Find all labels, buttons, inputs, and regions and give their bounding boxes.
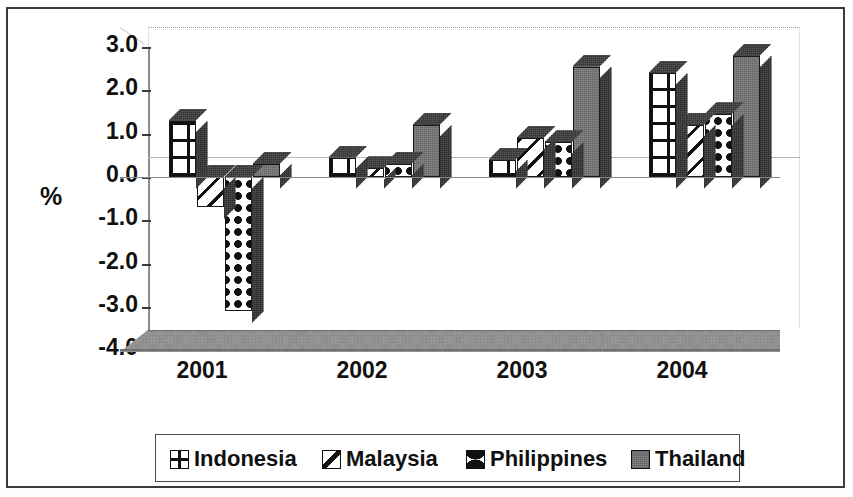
- legend-label: Thailand: [655, 446, 745, 472]
- chart-screenshot: 3.02.01.00.0-1.0-2.0-3.0-4.0 % 200120022…: [0, 0, 853, 497]
- legend-items-row: IndonesiaMalaysiaPhilippinesThailand: [156, 435, 739, 481]
- legend-item-indonesia: Indonesia: [170, 446, 297, 472]
- legend-item-malaysia: Malaysia: [322, 446, 438, 472]
- bar-side-face: [252, 177, 264, 323]
- x-axis-label-2002: 2002: [307, 357, 417, 384]
- thailand-solid-swatch: [631, 450, 650, 469]
- y-axis-tick-mark: [142, 90, 151, 92]
- y-axis-tick-label: -2.0: [60, 250, 138, 273]
- bar-indonesia-2002: [329, 158, 356, 177]
- bar-front-face: [649, 73, 676, 177]
- y-axis-tick-mark: [142, 134, 151, 136]
- bar-front-face: [169, 121, 196, 177]
- bar-front-face: [385, 164, 412, 177]
- legend-item-thailand: Thailand: [631, 446, 745, 472]
- philippines-wavy-swatch: [466, 450, 485, 469]
- zero-line: [120, 177, 780, 178]
- y-axis-tick-mark: [142, 264, 151, 266]
- bar-front-face: [329, 158, 356, 177]
- plot-floor-front-edge: [120, 349, 780, 351]
- bar-indonesia-2003: [489, 160, 516, 177]
- y-axis-tick-label: 1.0: [60, 120, 138, 143]
- chart-plot-area: 3.02.01.00.0-1.0-2.0-3.0-4.0 % 200120022…: [0, 0, 853, 497]
- chart-legend: IndonesiaMalaysiaPhilippinesThailand: [155, 434, 740, 482]
- bar-front-face: [489, 160, 516, 177]
- category-separator: [442, 330, 443, 351]
- y-axis-tick-mark: [142, 220, 151, 222]
- malaysia-diagonal-swatch: [322, 450, 341, 469]
- bar-side-face: [196, 121, 208, 189]
- bar-front-face: [413, 125, 440, 177]
- y-axis-tick-mark: [142, 47, 151, 49]
- legend-label: Malaysia: [346, 446, 438, 472]
- bar-side-face: [760, 56, 772, 189]
- y-axis-tick-label: 0.0: [60, 163, 138, 186]
- legend-label: Indonesia: [194, 446, 297, 472]
- x-axis-label-2001: 2001: [147, 357, 257, 384]
- bar-side-face: [676, 73, 688, 189]
- y-axis-line: [148, 47, 150, 350]
- legend-label: Philippines: [490, 446, 607, 472]
- category-separator: [282, 330, 283, 351]
- x-axis-label-2003: 2003: [467, 357, 577, 384]
- y-axis-title: %: [40, 182, 62, 211]
- y-axis-tick-mark: [142, 307, 151, 309]
- bar-side-face: [600, 67, 612, 189]
- x-axis-label-2004: 2004: [627, 357, 737, 384]
- legend-item-philippines: Philippines: [466, 446, 607, 472]
- y-axis-tick-label: 3.0: [60, 33, 138, 56]
- y-axis-tick-label: -3.0: [60, 293, 138, 316]
- bar-philippines-2002: [385, 164, 412, 177]
- y-axis-tick-label: 2.0: [60, 76, 138, 99]
- category-separator: [602, 330, 603, 351]
- bar-indonesia-2001: [169, 121, 196, 177]
- bar-indonesia-2004: [649, 73, 676, 177]
- indonesia-grid-swatch: [170, 450, 189, 469]
- bar-thailand-2002: [413, 125, 440, 177]
- y-axis-tick-label: -1.0: [60, 206, 138, 229]
